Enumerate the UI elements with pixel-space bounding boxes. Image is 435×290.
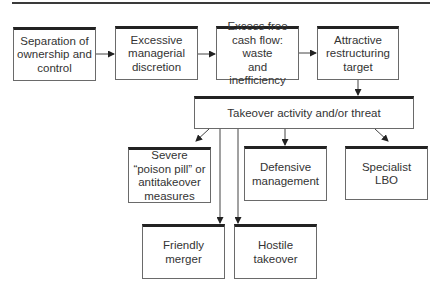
box-label: Takeover activity and/or threat	[227, 107, 380, 121]
box-hostile-takeover: Hostile takeover	[234, 224, 317, 279]
arrow-takeover-lbo	[375, 129, 388, 141]
box-restructuring-target: Attractive restructuring target	[317, 26, 399, 80]
box-takeover-activity: Takeover activity and/or threat	[194, 96, 414, 129]
box-label: Separation of ownership and control	[17, 35, 92, 76]
box-label: Specialist LBO	[349, 161, 424, 188]
box-poison-pill: Severe “poison pill” or antitakeover mea…	[128, 147, 211, 203]
box-label: Excess free cash flow: waste and ineffic…	[220, 20, 295, 88]
box-label: Friendly merger	[146, 239, 221, 266]
arrow-takeover-poisonpill	[196, 129, 209, 141]
box-label: Hostile takeover	[238, 239, 313, 266]
box-label: Excessive managerial discretion	[128, 34, 185, 75]
box-friendly-merger: Friendly merger	[142, 224, 225, 279]
box-excess-free-cash-flow: Excess free cash flow: waste and ineffic…	[216, 26, 299, 80]
box-separation-of-ownership: Separation of ownership and control	[13, 27, 96, 81]
box-label: Attractive restructuring target	[326, 34, 390, 75]
box-defensive-management: Defensive management	[244, 146, 327, 201]
box-label: Defensive management	[252, 161, 319, 188]
box-excessive-discretion: Excessive managerial discretion	[115, 26, 198, 80]
box-label: Severe “poison pill” or antitakeover mea…	[133, 149, 205, 203]
box-specialist-lbo: Specialist LBO	[345, 146, 428, 200]
